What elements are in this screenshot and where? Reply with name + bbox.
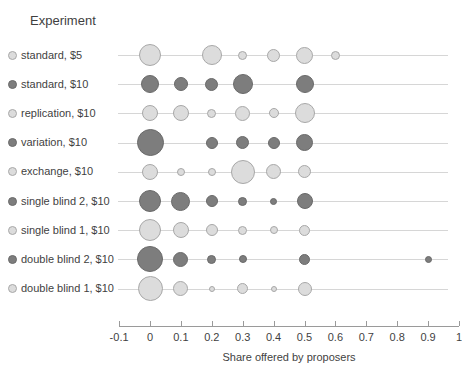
data-bubble	[173, 222, 189, 238]
data-bubble	[233, 74, 253, 94]
data-bubble	[206, 195, 218, 207]
x-axis-tick-label: 0.2	[204, 331, 219, 343]
x-axis-tick	[119, 321, 120, 326]
x-axis-tick	[305, 321, 306, 326]
data-bubble	[296, 75, 314, 93]
data-bubble	[137, 246, 163, 272]
x-axis-tick-label: 0.8	[390, 331, 405, 343]
data-bubble	[173, 252, 188, 267]
x-axis-tick	[212, 321, 213, 326]
gridline	[118, 84, 448, 85]
gridline	[118, 289, 448, 290]
data-bubble	[298, 165, 311, 178]
data-bubble	[299, 225, 310, 236]
x-axis-title: Share offered by proposers	[119, 351, 459, 363]
data-bubble	[266, 164, 281, 179]
x-axis-tick-label: 0.4	[266, 331, 281, 343]
data-bubble	[142, 105, 158, 121]
data-bubble	[268, 137, 280, 149]
x-axis-tick-label: 0.6	[328, 331, 343, 343]
data-bubble	[139, 190, 161, 212]
data-bubble	[231, 160, 255, 184]
gridline	[118, 55, 448, 56]
data-bubble	[177, 168, 185, 176]
data-bubble	[141, 75, 159, 93]
data-bubble	[239, 255, 247, 263]
data-bubble	[236, 136, 249, 149]
data-bubble	[295, 103, 315, 123]
gridline	[118, 259, 448, 260]
x-axis-tick-label: 0.5	[297, 331, 312, 343]
data-bubble	[271, 286, 277, 292]
data-bubble	[237, 283, 248, 294]
data-bubble	[298, 282, 312, 296]
x-axis-tick-label: 0.1	[173, 331, 188, 343]
data-bubble	[331, 51, 340, 60]
data-bubble	[139, 44, 161, 66]
data-bubble	[235, 106, 250, 121]
x-axis-tick-label: 0.9	[420, 331, 435, 343]
gridline	[118, 230, 448, 231]
data-bubble	[137, 129, 164, 156]
data-bubble	[269, 108, 279, 118]
data-bubble	[267, 49, 280, 62]
data-bubble	[207, 255, 216, 264]
gridline	[118, 201, 448, 202]
x-axis-tick	[459, 321, 460, 326]
data-bubble	[296, 134, 313, 151]
gridline	[118, 113, 448, 114]
data-bubble	[296, 47, 313, 64]
data-bubble	[174, 77, 188, 91]
data-bubble	[206, 224, 218, 236]
x-axis-tick	[150, 321, 151, 326]
data-bubble	[238, 226, 247, 235]
x-axis-tick-label: -0.1	[110, 331, 129, 343]
x-axis-tick-label: 0	[147, 331, 153, 343]
x-axis-tick	[181, 321, 182, 326]
data-bubble	[270, 198, 277, 205]
gridline	[118, 172, 448, 173]
x-axis-tick	[335, 321, 336, 326]
x-axis-tick-label: 1	[456, 331, 462, 343]
x-axis-tick	[274, 321, 275, 326]
data-bubble	[139, 219, 161, 241]
x-axis-tick	[397, 321, 398, 326]
data-bubble	[207, 109, 216, 118]
data-bubble	[208, 168, 216, 176]
data-bubble	[270, 226, 278, 234]
data-bubble	[202, 45, 222, 65]
x-axis-tick	[428, 321, 429, 326]
data-bubble	[142, 164, 158, 180]
gridline	[118, 143, 448, 144]
data-bubble	[425, 256, 432, 263]
x-axis-tick	[366, 321, 367, 326]
x-axis-line	[119, 326, 459, 327]
x-axis-tick-label: 0.3	[235, 331, 250, 343]
x-axis-tick	[243, 321, 244, 326]
data-bubble	[297, 193, 313, 209]
data-bubble	[173, 105, 189, 121]
data-bubble	[238, 197, 247, 206]
data-bubble	[299, 254, 310, 265]
data-bubble	[171, 192, 190, 211]
data-bubble	[238, 51, 247, 60]
data-bubble	[138, 276, 163, 301]
data-bubble	[173, 281, 188, 296]
data-bubble	[206, 137, 218, 149]
data-bubble	[205, 78, 218, 91]
x-axis-tick-label: 0.7	[359, 331, 374, 343]
data-bubble	[209, 286, 215, 292]
